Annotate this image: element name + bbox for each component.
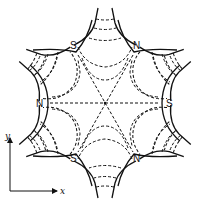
- pole-label-top-left: S: [70, 40, 77, 51]
- y-axis-label: y: [4, 131, 11, 141]
- pole-label-right: S: [166, 98, 173, 109]
- pole-label-top-right: N: [133, 40, 140, 51]
- pole-label-bottom-left: S: [70, 153, 77, 164]
- center-point: [104, 102, 106, 104]
- sextupole-diagram: S N N S S N y x: [0, 0, 198, 209]
- pole-label-bottom-right: N: [133, 153, 140, 164]
- x-axis-label: x: [60, 186, 65, 196]
- pole-label-left: N: [36, 98, 43, 109]
